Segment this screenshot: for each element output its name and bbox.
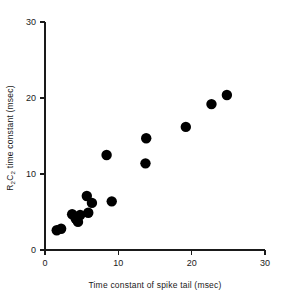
data-point-8 — [87, 198, 97, 208]
data-point-14 — [206, 99, 216, 109]
data-point-1 — [56, 224, 66, 234]
data-point-12 — [141, 133, 151, 143]
scatter-plot-figure: 01020300102030 Time constant of spike ta… — [0, 0, 285, 298]
svg-text:R2C2 time constant (msec): R2C2 time constant (msec) — [5, 85, 16, 190]
y-tick-label-10: 10 — [26, 169, 36, 179]
y-axis-title-rest: time constant (msec) — [5, 85, 15, 170]
y-tick-label-0: 0 — [31, 245, 36, 255]
data-point-15 — [222, 90, 232, 100]
data-point-11 — [140, 158, 150, 168]
data-point-9 — [101, 150, 111, 160]
x-tick-label-30: 30 — [260, 258, 270, 268]
data-point-13 — [181, 122, 191, 132]
x-axis-title: Time constant of spike tail (msec) — [88, 280, 221, 290]
data-point-10 — [107, 196, 117, 206]
x-tick-label-10: 10 — [113, 258, 123, 268]
data-point-6 — [83, 208, 93, 218]
data-points-group — [52, 90, 233, 236]
x-tick-label-0: 0 — [42, 258, 47, 268]
y-axis-title: R2C2 time constant (msec) — [5, 85, 16, 190]
plot-canvas: 01020300102030 Time constant of spike ta… — [0, 0, 285, 298]
y-tick-label-20: 20 — [26, 93, 36, 103]
x-tick-label-20: 20 — [187, 258, 197, 268]
y-tick-label-30: 30 — [26, 17, 36, 27]
